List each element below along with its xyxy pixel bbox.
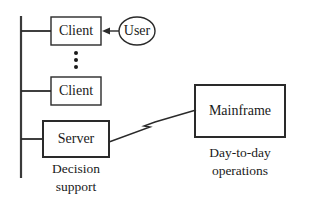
server-label: Server <box>43 131 109 147</box>
ellipsis-dot <box>74 65 78 69</box>
server-mainframe-link <box>109 110 196 142</box>
mainframe-caption: Day-to-day operations <box>195 144 285 180</box>
user-label: User <box>119 23 155 39</box>
ellipsis-dot <box>74 51 78 55</box>
client1-label: Client <box>51 23 101 39</box>
server-caption-line1: Decision <box>36 160 116 178</box>
arrowhead-icon <box>102 28 110 35</box>
client2-label: Client <box>51 83 101 99</box>
ellipsis-dot <box>74 58 78 62</box>
mainframe-caption-line2: operations <box>195 162 285 180</box>
server-caption: Decision support <box>36 160 116 196</box>
mainframe-label: Mainframe <box>195 103 285 119</box>
mainframe-caption-line1: Day-to-day <box>195 144 285 162</box>
server-caption-line2: support <box>36 178 116 196</box>
